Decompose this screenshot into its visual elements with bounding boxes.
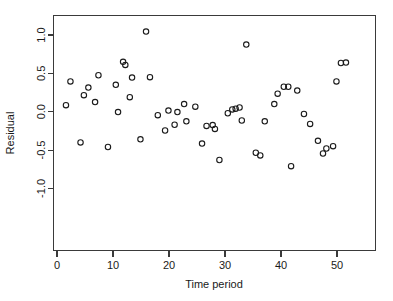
plot-canvas: 01020304050 -1.0-0.50.00.51.0 Time perio… <box>0 0 393 301</box>
x-tick-label: 0 <box>54 259 60 271</box>
x-tick-label: 30 <box>219 259 231 271</box>
y-tick-label: 0.0 <box>35 104 47 119</box>
y-axis-title: Residual <box>4 112 16 155</box>
x-tick-label: 10 <box>107 259 119 271</box>
x-tick-label: 40 <box>275 259 287 271</box>
scatter-plot-figure: 01020304050 -1.0-0.50.00.51.0 Time perio… <box>0 0 393 301</box>
y-tick-label: 1.0 <box>35 27 47 42</box>
y-tick-label: -0.5 <box>35 141 47 160</box>
y-tick-label: 0.5 <box>35 66 47 81</box>
x-tick-label: 20 <box>163 259 175 271</box>
plot-background <box>0 0 393 301</box>
x-axis-title: Time period <box>185 278 243 290</box>
x-tick-label: 50 <box>331 259 343 271</box>
y-tick-label: -1.0 <box>35 179 47 198</box>
